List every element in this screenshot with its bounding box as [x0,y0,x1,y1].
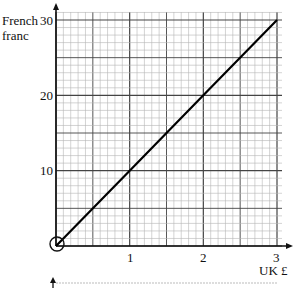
y-tick-10: 10 [40,163,53,178]
y-title-line2: franc [2,28,38,43]
conversion-graph [0,0,306,288]
y-tick-30: 30 [40,13,53,28]
y-title-line1: French [2,13,38,28]
y-tick-20: 20 [40,88,53,103]
x-axis-title: UK £ [259,263,288,278]
x-tick-2: 2 [200,250,207,265]
y-axis-title: French franc [2,13,38,43]
x-tick-1: 1 [127,250,134,265]
